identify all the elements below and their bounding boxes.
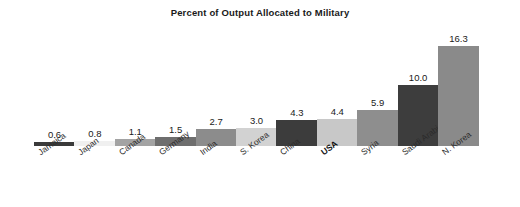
bar-value-label: 16.3 xyxy=(430,33,487,44)
bar-group: 1.5Germany xyxy=(155,0,196,207)
bar[interactable] xyxy=(357,110,398,146)
bar-group: 5.9Syria xyxy=(357,0,398,207)
bar-chart: Percent of Output Allocated to Military … xyxy=(0,0,520,207)
bar[interactable] xyxy=(317,119,358,146)
bar-group: 0.8Japan xyxy=(74,0,115,207)
bar-group: 3.0S. Korea xyxy=(236,0,277,207)
bar-group: 16.3N. Korea xyxy=(438,0,479,207)
bar-group: 2.7India xyxy=(196,0,237,207)
bar[interactable] xyxy=(438,46,479,146)
bar-group: 4.3China xyxy=(276,0,317,207)
bar-group: 1.1Canada xyxy=(115,0,156,207)
plot-area: 0.6Jamaica0.8Japan1.1Canada1.5Germany2.7… xyxy=(0,0,520,207)
bar-group: 0.6Jamaica xyxy=(34,0,75,207)
bar-group: 10.0Saudi Arabia xyxy=(398,0,439,207)
